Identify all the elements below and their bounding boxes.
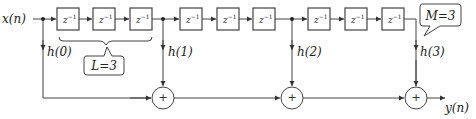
output-label: y(n) [445,102,469,114]
delay-block: z−1 [136,13,150,25]
coefficient-h0: h(0) [47,46,72,58]
coefficient-h2: h(2) [297,46,322,58]
delay-block: z−1 [186,13,200,25]
callout-l: L=3 [84,59,124,73]
delay-block: z−1 [259,13,273,25]
input-label: x(n) [2,13,26,25]
adder-1: + [152,92,174,103]
coefficient-h1: h(1) [168,46,193,58]
delay-block: z−1 [63,13,77,25]
fir-block-diagram: x(n) y(n) h(0) h(1) h(2) h(3) L=3 M=3 z−… [0,0,476,119]
callout-m: M=3 [420,9,461,23]
delay-block: z−1 [314,13,328,25]
delay-block: z−1 [351,13,365,25]
coefficient-h3: h(3) [420,46,445,58]
delay-block: z−1 [388,13,402,25]
adder-3: + [405,92,427,103]
adder-2: + [281,92,303,103]
delay-block: z−1 [99,13,113,25]
delay-block: z−1 [223,13,237,25]
